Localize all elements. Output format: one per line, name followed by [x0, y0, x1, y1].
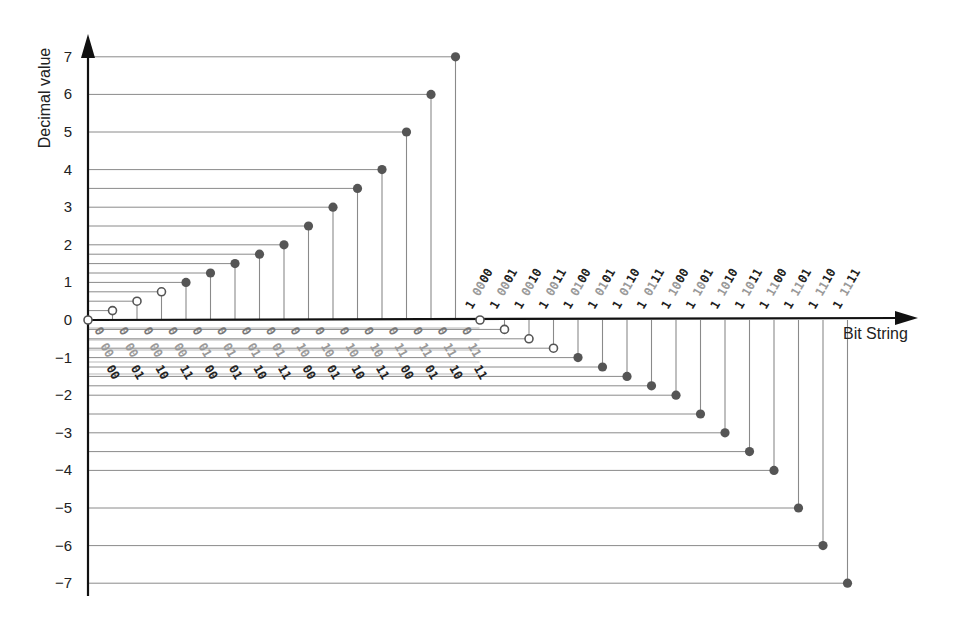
x-axis-title: Bit String	[843, 325, 908, 342]
bit-label-fraction: 11	[275, 363, 294, 383]
bit-label-fraction: 10	[152, 363, 171, 383]
bit-label-fraction: 01	[128, 363, 147, 383]
bit-label-sign: 1	[487, 298, 503, 311]
bit-label-exponent: 10	[367, 341, 386, 361]
y-tick-label: −5	[55, 499, 72, 516]
bit-label-exponent: 01	[244, 341, 263, 361]
filled-marker	[598, 362, 607, 371]
bit-label-sign: 0	[116, 325, 132, 338]
filled-marker	[255, 250, 264, 259]
bit-label-fraction: 00	[299, 363, 318, 383]
bit-label-fraction: 01	[226, 363, 245, 383]
y-tick-label: −4	[55, 461, 72, 478]
bit-label-sign: 1	[830, 298, 846, 311]
hollow-marker	[525, 335, 533, 343]
hollow-marker	[84, 316, 92, 324]
bit-label-exponent: 11	[465, 341, 484, 361]
bit-label-fraction: 10	[348, 363, 367, 383]
bit-label-sign: 1	[683, 298, 699, 311]
filled-marker	[622, 372, 631, 381]
y-axis-arrow-icon	[81, 34, 95, 58]
hollow-marker	[550, 344, 558, 352]
y-tick-label: −6	[55, 537, 72, 554]
filled-marker	[377, 165, 386, 174]
bit-label-sign: 1	[560, 298, 576, 311]
filled-marker	[181, 278, 190, 287]
bit-label-fraction: 11	[373, 363, 392, 383]
bit-label-fraction: 00	[103, 363, 122, 383]
y-axis-title: Decimal value	[36, 48, 53, 149]
bit-label-sign: 0	[385, 325, 401, 338]
bit-label-sign: 1	[658, 298, 674, 311]
bit-label-sign: 1	[511, 298, 527, 311]
stem-chart: 76543210−1−2−3−4−5−6−7 Decimal value Bit…	[0, 0, 962, 620]
y-tick-labels: 76543210−1−2−3−4−5−6−7	[55, 48, 72, 591]
y-tick-label: −1	[55, 349, 72, 366]
filled-marker	[696, 409, 705, 418]
bit-label-exponent: 10	[342, 341, 361, 361]
bit-label-sign: 0	[287, 325, 303, 338]
bit-label-sign: 0	[459, 325, 475, 338]
bit-label-fraction: 11	[471, 363, 490, 383]
bit-label-sign: 0	[238, 325, 254, 338]
hollow-marker	[158, 288, 166, 296]
bit-label-sign: 0	[434, 325, 450, 338]
y-tick-label: 2	[64, 236, 72, 253]
bit-label-exponent: 01	[269, 341, 288, 361]
y-tick-label: −2	[55, 386, 72, 403]
bit-label-sign: 1	[536, 298, 552, 311]
bit-label-fraction: 00	[397, 363, 416, 383]
bit-label-exponent: 00	[171, 341, 190, 361]
y-tick-label: 3	[64, 198, 72, 215]
bit-label-sign: 0	[263, 325, 279, 338]
filled-marker	[328, 203, 337, 212]
bit-label-exponent: 10	[318, 341, 337, 361]
bit-label-sign: 0	[91, 325, 107, 338]
bit-label-exponent: 11	[416, 341, 435, 361]
y-tick-label: −7	[55, 574, 72, 591]
bit-label-sign: 0	[214, 325, 230, 338]
bit-label-sign: 0	[312, 325, 328, 338]
bit-label-sign: 1	[634, 298, 650, 311]
bit-label-sign: 1	[756, 298, 772, 311]
bit-label-exponent: 01	[220, 341, 239, 361]
filled-marker	[451, 52, 460, 61]
bit-label-fraction: 10	[250, 363, 269, 383]
bit-label-sign: 1	[781, 298, 797, 311]
y-tick-label: 4	[64, 161, 72, 178]
hollow-marker	[109, 307, 117, 315]
bit-label-sign: 0	[189, 325, 205, 338]
hollow-marker	[133, 297, 141, 305]
bit-label-exponent: 00	[146, 341, 165, 361]
y-tick-label: 7	[64, 48, 72, 65]
bit-label-exponent: 11	[391, 341, 410, 361]
bit-label-sign: 0	[361, 325, 377, 338]
bit-label-exponent: 00	[122, 341, 141, 361]
bit-label-exponent: 00	[97, 341, 116, 361]
filled-marker	[794, 503, 803, 512]
filled-marker	[720, 428, 729, 437]
bit-label-fraction: 11	[177, 363, 196, 383]
bit-label-fraction: 01	[422, 363, 441, 383]
filled-marker	[573, 353, 582, 362]
axes	[81, 34, 918, 596]
bit-label-sign: 1	[462, 298, 478, 311]
bit-label-fraction: 00	[201, 363, 220, 383]
y-tick-label: 0	[64, 311, 72, 328]
y-tick-label: 6	[64, 85, 72, 102]
y-tick-label: 1	[64, 273, 72, 290]
y-tick-label: 5	[64, 123, 72, 140]
y-tick-label: −3	[55, 424, 72, 441]
bit-label-exponent: 11	[440, 341, 459, 361]
hollow-marker	[476, 316, 484, 324]
bit-label-exponent: 10	[293, 341, 312, 361]
bit-label-exponent: 01	[195, 341, 214, 361]
hollow-marker	[501, 325, 509, 333]
filled-marker	[647, 381, 656, 390]
bit-label-sign: 0	[140, 325, 156, 338]
bit-label-sign: 1	[585, 298, 601, 311]
bit-label-sign: 1	[732, 298, 748, 311]
filled-marker	[426, 90, 435, 99]
filled-marker	[402, 127, 411, 136]
x-axis	[88, 318, 900, 320]
